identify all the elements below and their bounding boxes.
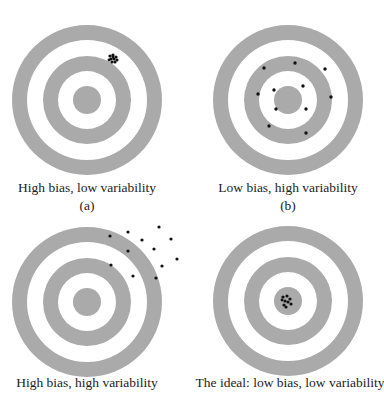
sublabel-b: (b) [280, 198, 296, 214]
target-a [12, 25, 162, 175]
target-c [12, 225, 179, 377]
caption-a: High bias, low variability [18, 180, 156, 196]
caption-d: The ideal: low bias, low variability [196, 375, 384, 391]
target-b [213, 25, 363, 175]
sublabel-a: (a) [80, 198, 95, 214]
target-d [213, 226, 363, 376]
caption-c: High bias, high variability [16, 375, 158, 391]
caption-b: Low bias, high variability [218, 180, 357, 196]
